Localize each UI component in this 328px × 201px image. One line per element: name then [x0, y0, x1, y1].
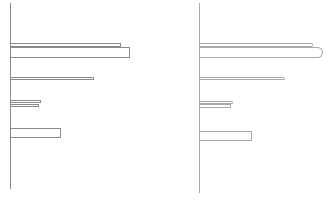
bar-6: [200, 131, 252, 141]
bar-3: [200, 77, 285, 80]
y-axis-line: [199, 3, 200, 193]
bar-2: [200, 47, 323, 58]
bar-chart-right: [0, 0, 328, 201]
bar-5: [200, 104, 231, 108]
